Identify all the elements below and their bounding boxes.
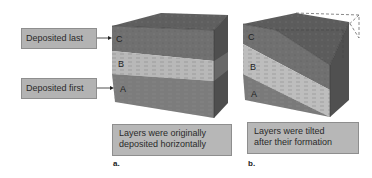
block-b: C B A: [243, 13, 359, 117]
caption-a-line2: deposited horizontally: [119, 139, 225, 150]
label-deposited-first: Deposited first: [21, 78, 97, 99]
arrows: [97, 36, 114, 90]
panel-letter-b: b.: [248, 159, 255, 168]
stratigraphy-figure: C B A: [0, 0, 372, 178]
block-b-letter-c: C: [248, 32, 255, 42]
label-deposited-last: Deposited last: [21, 28, 97, 49]
block-b-letter-a: A: [251, 89, 257, 99]
panel-letter-a: a.: [113, 159, 120, 168]
block-a-letter-c: C: [116, 34, 123, 44]
caption-a: Layers were originally deposited horizon…: [112, 124, 232, 156]
block-a: C B A: [112, 13, 228, 118]
block-a-letter-a: A: [120, 84, 126, 94]
label-deposited-last-text: Deposited last: [26, 33, 83, 44]
block-a-letter-b: B: [118, 59, 124, 69]
caption-a-line1: Layers were originally: [119, 128, 225, 139]
label-deposited-first-text: Deposited first: [26, 83, 84, 94]
caption-b: Layers were tilted after their formation: [247, 122, 359, 154]
block-b-letter-b: B: [250, 62, 256, 72]
caption-b-line1: Layers were tilted: [254, 126, 352, 137]
caption-b-line2: after their formation: [254, 137, 352, 148]
